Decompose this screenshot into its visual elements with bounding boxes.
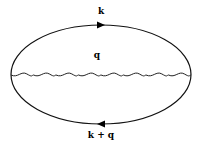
label-k: k [98,7,104,16]
feynman-diagram [0,0,199,147]
boson-wavy-line [11,73,191,76]
label-k-plus-q: k + q [88,131,114,140]
top-arrow-icon [97,22,105,29]
label-q: q [94,51,100,60]
bottom-arrow-icon [97,121,105,128]
